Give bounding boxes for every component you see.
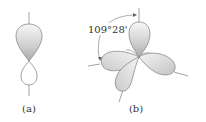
panel-b: 109°28' (b) xyxy=(86,8,188,114)
axis-line-right xyxy=(174,72,188,76)
axis-line-left xyxy=(88,64,100,66)
angle-label: 109°28' xyxy=(88,24,128,35)
panel-a: (a) xyxy=(16,12,42,114)
arrow-head-top xyxy=(133,13,137,17)
orbital-figure: (a) 109°28' (b) xyxy=(0,0,206,122)
lobe-right xyxy=(139,53,175,75)
orbital-diagram: (a) 109°28' (b) xyxy=(0,0,206,122)
axis-line-bottom xyxy=(119,90,123,102)
caption-a: (a) xyxy=(22,103,36,114)
large-lobe xyxy=(16,24,42,61)
small-lobe xyxy=(21,61,37,85)
caption-b: (b) xyxy=(129,103,143,114)
